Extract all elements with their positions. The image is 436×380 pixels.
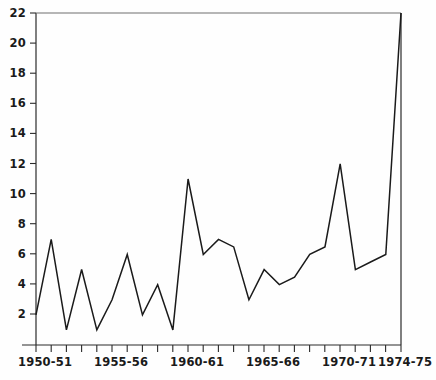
chart-figure: 22 20 18 16 14 12 10 8 6 4 2 1950-51 195… bbox=[0, 0, 436, 380]
data-series-line bbox=[36, 13, 401, 330]
x-tick-label-1960-61: 1960-61 bbox=[170, 355, 224, 369]
plot-frame bbox=[22, 13, 401, 345]
y-tick-label-16: 16 bbox=[0, 96, 26, 110]
x-tick-label-1965-66: 1965-66 bbox=[246, 355, 300, 369]
y-tick-label-22: 22 bbox=[0, 6, 26, 20]
y-tick-label-4: 4 bbox=[0, 277, 26, 291]
y-tick-label-20: 20 bbox=[0, 36, 26, 50]
y-tick-label-8: 8 bbox=[0, 217, 26, 231]
x-tick-label-1970-71: 1970-71 bbox=[322, 355, 376, 369]
y-tick-label-14: 14 bbox=[0, 126, 26, 140]
y-tick-marks bbox=[30, 13, 36, 314]
line-chart-canvas bbox=[0, 0, 436, 380]
y-tick-label-2: 2 bbox=[0, 307, 26, 321]
y-tick-label-12: 12 bbox=[0, 157, 26, 171]
y-tick-label-10: 10 bbox=[0, 187, 26, 201]
x-tick-label-1950-51: 1950-51 bbox=[18, 355, 72, 369]
x-tick-marks bbox=[36, 345, 401, 352]
x-tick-label-1974-75: 1974-75 bbox=[378, 355, 432, 369]
y-tick-label-18: 18 bbox=[0, 66, 26, 80]
x-tick-label-1955-56: 1955-56 bbox=[94, 355, 148, 369]
y-tick-label-6: 6 bbox=[0, 247, 26, 261]
